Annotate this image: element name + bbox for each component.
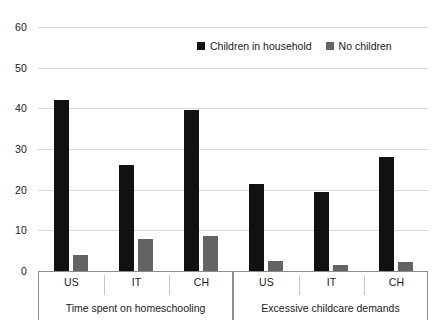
chart-legend: Children in household No children — [197, 40, 392, 52]
gridline — [38, 108, 428, 109]
category-group: USITCHTime spent on homeschooling — [38, 272, 233, 320]
legend-label: No children — [339, 40, 392, 52]
bar — [314, 192, 329, 271]
gridline — [38, 190, 428, 191]
bar — [203, 236, 218, 271]
bar — [54, 100, 69, 271]
gray-square-swatch-icon — [326, 42, 334, 50]
bar — [268, 261, 283, 271]
category-group-label: Excessive childcare demands — [234, 302, 427, 315]
category-separator — [104, 275, 105, 295]
category-separator — [169, 275, 170, 295]
gridline — [38, 149, 428, 150]
bar — [73, 255, 88, 271]
plot-area: 0102030405060 — [38, 27, 428, 271]
y-axis-tick-label: 40 — [0, 103, 27, 114]
bar — [398, 262, 413, 271]
bar — [333, 265, 348, 271]
black-square-swatch-icon — [197, 42, 205, 50]
category-tick-row: USITCH — [234, 275, 427, 295]
category-separator — [299, 275, 300, 295]
category-group: USITCHExcessive childcare demands — [233, 272, 428, 320]
y-axis-tick-label: 10 — [0, 225, 27, 236]
y-axis-tick-label: 50 — [0, 63, 27, 74]
category-tick-row: USITCH — [39, 275, 232, 295]
legend-label: Children in household — [210, 40, 312, 52]
bar — [119, 165, 134, 271]
category-tick-label: IT — [299, 275, 364, 289]
category-group-label: Time spent on homeschooling — [39, 302, 232, 315]
bar — [184, 110, 199, 271]
category-axis: USITCHTime spent on homeschoolingUSITCHE… — [38, 272, 428, 320]
category-tick-label: US — [39, 275, 104, 289]
category-tick-label: CH — [169, 275, 234, 289]
legend-entry-no-children: No children — [326, 40, 392, 52]
y-axis-tick-label: 30 — [0, 144, 27, 155]
y-axis-tick-label: 0 — [0, 266, 27, 277]
legend-entry-children-in-household: Children in household — [197, 40, 312, 52]
y-axis-tick-label: 20 — [0, 185, 27, 196]
bar — [379, 157, 394, 271]
bar — [249, 184, 264, 271]
gridline — [38, 27, 428, 28]
category-tick-label: CH — [364, 275, 429, 289]
category-tick-label: US — [234, 275, 299, 289]
gridline — [38, 68, 428, 69]
category-separator — [364, 275, 365, 295]
bar — [138, 239, 153, 271]
gridline — [38, 230, 428, 231]
bar-chart: 0102030405060 Children in household No c… — [0, 0, 435, 324]
category-tick-label: IT — [104, 275, 169, 289]
y-axis-tick-label: 60 — [0, 22, 27, 33]
